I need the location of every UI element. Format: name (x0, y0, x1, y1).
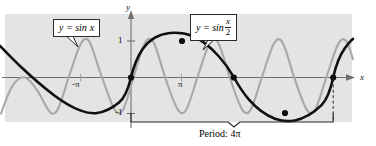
y-tick-label-1: 1 (118, 36, 123, 45)
x-axis-label: x (360, 73, 364, 82)
callout-sin-half-x: y = sinx2 (190, 14, 237, 41)
y-tick-label-neg1: -1 (115, 108, 123, 117)
y-axis-label: y (126, 3, 130, 12)
x-tick-label-pi: π (178, 80, 183, 89)
figure-sine-period: y x 1 -1 -π π y = sinx y = sinx2 Period:… (0, 0, 376, 146)
fraction-denominator: 2 (225, 28, 232, 37)
fraction-numerator: x (225, 17, 232, 26)
callout-sin-x-var: x (90, 22, 94, 33)
curve-sin-x (1, 39, 353, 114)
period-bracket (131, 113, 333, 127)
callout-sin-x: y = sinx (53, 19, 100, 37)
callout-sin-x-text: y = sin (59, 22, 87, 33)
period-label: Period: 4π (199, 128, 240, 139)
callout-sin-half-x-text: y = sin (196, 22, 224, 33)
fraction-x-over-2: x2 (225, 17, 232, 37)
x-tick-label-neg-pi: -π (72, 80, 80, 89)
